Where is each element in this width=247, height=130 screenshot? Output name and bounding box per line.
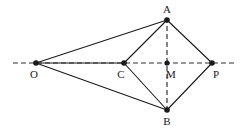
geometry-figure: OCMPAB bbox=[0, 0, 247, 130]
segment-c-a bbox=[124, 20, 167, 63]
segment-o-a bbox=[36, 20, 167, 63]
point-label-c: C bbox=[117, 69, 124, 80]
segment-o-b bbox=[36, 63, 167, 110]
segment-a-p bbox=[167, 20, 212, 63]
vertex-dot-b bbox=[164, 107, 170, 113]
point-label-b: B bbox=[163, 116, 170, 127]
vertex-dot-m bbox=[164, 60, 169, 65]
vertex-dot-o bbox=[33, 60, 39, 66]
point-label-a: A bbox=[163, 4, 171, 15]
vertex-dot-a bbox=[164, 17, 170, 23]
point-label-m: M bbox=[166, 69, 176, 80]
vertex-dot-p bbox=[209, 60, 215, 66]
vertex-dot-c bbox=[121, 60, 127, 66]
geometry-canvas bbox=[0, 0, 247, 130]
point-label-o: O bbox=[30, 69, 38, 80]
point-label-p: P bbox=[213, 69, 219, 80]
segment-c-b bbox=[124, 63, 167, 110]
